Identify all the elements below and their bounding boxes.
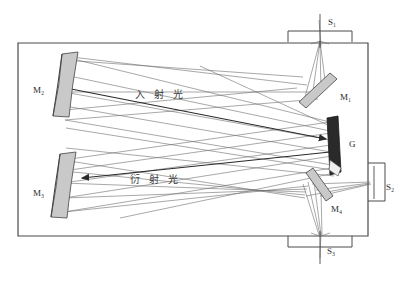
label-s2: S₂ — [386, 182, 394, 192]
label-incident-light: 入 射 光 — [135, 88, 186, 100]
mirror-m1 — [299, 73, 337, 108]
label-g: G — [349, 139, 356, 149]
label-m4: M₄ — [331, 204, 342, 214]
label-m1: M₁ — [340, 92, 351, 102]
label-s3: S₃ — [327, 246, 335, 256]
mirror-m2 — [53, 52, 78, 117]
mirror-m4 — [306, 168, 333, 201]
optical-diagram: S₁ S₂ S₃ M₁ M₂ M₃ M₄ G 入 射 光 衍 射 光 — [0, 0, 408, 284]
label-m2: M₂ — [33, 85, 44, 95]
beam-incident-axis — [66, 88, 326, 139]
label-s1: S₁ — [328, 17, 336, 27]
rays-grating-m3 — [63, 122, 332, 212]
grating-g — [327, 116, 341, 176]
beam-diffracted-axis — [82, 152, 330, 178]
label-diffracted-light: 衍 射 光 — [130, 173, 181, 185]
rays-stray — [66, 66, 334, 218]
mirror-m3 — [51, 152, 76, 218]
label-m3: M₃ — [33, 188, 44, 198]
port-right — [368, 163, 385, 201]
